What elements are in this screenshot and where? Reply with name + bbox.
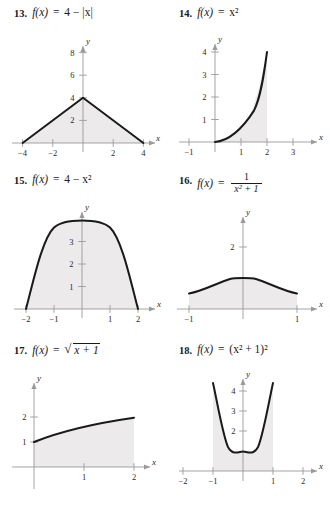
exercise-13: 13. f(x) = 4 − |x| xyxy=(0,0,165,168)
function-label: f(x) xyxy=(197,6,213,18)
svg-text:2: 2 xyxy=(69,259,73,269)
svg-text:2: 2 xyxy=(70,115,74,125)
svg-text:4: 4 xyxy=(202,47,207,57)
svg-text:2: 2 xyxy=(22,412,26,422)
equals-sign: = xyxy=(51,344,62,356)
exercise-17: 17. f(x) = √ x + 1 xyxy=(0,337,165,505)
function-label: f(x) xyxy=(197,343,213,355)
exercise-13-number: 13. xyxy=(14,6,27,20)
plot-18-svg: −2 −1 1 2 2 3 4 x y xyxy=(165,361,330,505)
x-tick-labels: −4 −2 2 4 xyxy=(18,148,146,158)
exercise-15-expression: f(x) = 4 − x² xyxy=(32,173,91,186)
y-axis-label: y xyxy=(85,36,90,46)
exercise-18-prompt: 18. f(x) = (x² + 1)² xyxy=(179,343,268,357)
exercise-15-number: 15. xyxy=(14,173,27,187)
x-axis-label: x xyxy=(318,299,323,309)
exercise-16-prompt: 16. f(x) = 1 x² + 1 xyxy=(179,173,262,195)
svg-text:2: 2 xyxy=(202,92,206,102)
exercise-18-number: 18. xyxy=(179,343,192,357)
exercise-16-expression: f(x) = 1 x² + 1 xyxy=(197,173,261,195)
x-tick-labels: −2 −1 1 2 xyxy=(21,314,140,324)
function-label: f(x) xyxy=(32,344,48,356)
y-axis-label: y xyxy=(217,34,222,44)
exercise-14-number: 14. xyxy=(179,6,192,20)
svg-text:−1: −1 xyxy=(49,314,58,324)
svg-text:−1: −1 xyxy=(184,147,193,157)
svg-text:6: 6 xyxy=(70,70,74,80)
y-tick-labels: 1 2 3 4 xyxy=(202,47,207,125)
x-axis-label: x xyxy=(156,299,161,309)
svg-text:2: 2 xyxy=(230,242,234,252)
svg-text:2: 2 xyxy=(231,426,235,436)
exercise-18-expression: f(x) = (x² + 1)² xyxy=(197,343,268,356)
plot-17-svg: 1 2 1 2 x y xyxy=(0,361,165,505)
radical: √ x + 1 xyxy=(64,343,99,357)
svg-text:1: 1 xyxy=(295,314,299,324)
exercise-13-plot: −4 −2 2 4 2 4 6 8 x y xyxy=(0,24,165,168)
x-axis-label: x xyxy=(155,133,160,143)
exercise-15: 15. f(x) = 4 − x² xyxy=(0,167,165,335)
radical-sign: √ xyxy=(64,342,71,355)
exercise-17-prompt: 17. f(x) = √ x + 1 xyxy=(14,343,100,357)
svg-text:1: 1 xyxy=(202,115,206,125)
svg-text:4: 4 xyxy=(141,148,146,158)
function-label: f(x) xyxy=(197,177,213,189)
x-tick-labels: −1 1 2 3 xyxy=(184,147,295,157)
svg-text:3: 3 xyxy=(231,406,235,416)
x-tick-labels: −1 1 xyxy=(184,314,299,324)
expression-body: 4 − |x| xyxy=(64,6,92,18)
exercise-15-plot: −2 −1 1 2 1 2 3 x y xyxy=(0,191,165,335)
expression-body: 4 − x² xyxy=(64,173,91,185)
svg-text:3: 3 xyxy=(291,147,295,157)
svg-text:1: 1 xyxy=(82,472,86,482)
equals-sign: = xyxy=(216,177,227,189)
plot-16-svg: −1 1 2 x y xyxy=(165,201,330,335)
svg-text:−1: −1 xyxy=(208,476,217,486)
svg-text:2: 2 xyxy=(301,476,305,486)
exercise-16-plot: −1 1 2 x y xyxy=(165,201,330,335)
y-tick-labels: 2 3 4 xyxy=(231,386,236,436)
fraction-numerator: 1 xyxy=(231,172,261,183)
exercise-13-prompt: 13. f(x) = 4 − |x| xyxy=(14,6,93,20)
svg-text:2: 2 xyxy=(136,314,140,324)
svg-text:−4: −4 xyxy=(18,148,28,158)
svg-text:−2: −2 xyxy=(21,314,30,324)
exercise-16-number: 16. xyxy=(179,173,192,187)
exercise-14: 14. f(x) = x² xyxy=(165,0,330,168)
function-label: f(x) xyxy=(32,173,48,185)
exercise-18: 18. f(x) = (x² + 1)² xyxy=(165,337,330,505)
svg-text:1: 1 xyxy=(239,147,243,157)
x-tick-labels: 1 2 xyxy=(82,472,136,482)
y-tick-labels: 1 2 3 xyxy=(69,237,73,292)
svg-text:8: 8 xyxy=(70,48,74,58)
function-label: f(x) xyxy=(32,6,48,18)
x-tick-labels: −2 −1 1 2 xyxy=(178,476,305,486)
svg-text:2: 2 xyxy=(132,472,136,482)
radical-body: x + 1 xyxy=(73,343,99,357)
x-axis-label: x xyxy=(318,461,323,471)
x-axis-label: x xyxy=(318,132,323,142)
equals-sign: = xyxy=(51,6,62,18)
expression-body: x² xyxy=(229,6,238,18)
svg-text:1: 1 xyxy=(22,437,26,447)
shaded-region xyxy=(34,418,134,467)
plot-15-svg: −2 −1 1 2 1 2 3 x y xyxy=(0,191,165,335)
svg-text:1: 1 xyxy=(108,314,112,324)
expression-body: (x² + 1)² xyxy=(229,343,267,355)
exercise-17-expression: f(x) = √ x + 1 xyxy=(32,343,100,357)
equals-sign: = xyxy=(216,6,227,18)
svg-text:−2: −2 xyxy=(48,148,57,158)
plot-13-svg: −4 −2 2 4 2 4 6 8 x y xyxy=(0,24,165,168)
svg-text:−2: −2 xyxy=(178,476,187,486)
fraction: 1 x² + 1 xyxy=(231,172,261,194)
svg-text:−1: −1 xyxy=(184,314,193,324)
exercise-14-expression: f(x) = x² xyxy=(197,6,238,19)
exercise-17-plot: 1 2 1 2 x y xyxy=(0,361,165,505)
exercise-17-number: 17. xyxy=(14,343,27,357)
y-tick-labels: 2 xyxy=(230,242,234,252)
equals-sign: = xyxy=(51,173,62,185)
svg-text:3: 3 xyxy=(202,70,206,80)
y-tick-labels: 1 2 xyxy=(22,412,26,447)
svg-text:2: 2 xyxy=(265,147,269,157)
y-axis-label: y xyxy=(84,202,89,212)
